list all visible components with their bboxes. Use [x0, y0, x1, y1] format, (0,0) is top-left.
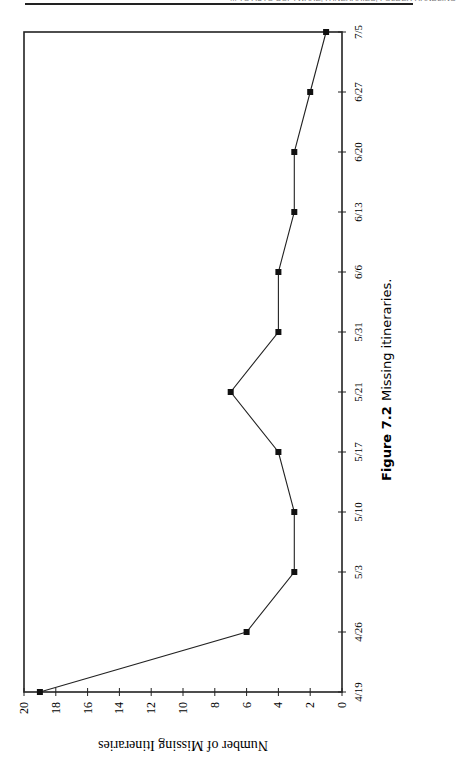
data-markers: [37, 29, 329, 695]
data-point-marker: [291, 149, 297, 155]
y-tick-label: 20: [17, 702, 31, 714]
data-point-marker: [323, 29, 329, 35]
x-tick-label: 5/3: [352, 564, 364, 579]
x-tick-label: 7/5: [352, 24, 364, 39]
data-point-marker: [275, 329, 281, 335]
data-point-marker: [291, 509, 297, 515]
figure-caption: Missing itineraries.: [379, 279, 394, 401]
data-point-marker: [275, 449, 281, 455]
x-tick-label: 5/31: [352, 322, 364, 342]
y-tick-label: 12: [144, 702, 158, 714]
data-point-marker: [244, 629, 250, 635]
y-tick-label: 14: [112, 702, 126, 714]
x-tick-label: 5/17: [352, 442, 364, 462]
y-tick-label: 8: [208, 702, 222, 708]
data-point-marker: [291, 209, 297, 215]
y-axis-label: Number of Missing Itineraries: [98, 738, 268, 753]
data-point-marker: [291, 569, 297, 575]
data-point-marker: [307, 89, 313, 95]
y-tick-label: 10: [176, 702, 190, 714]
y-tick-label: 18: [49, 702, 63, 714]
data-point-marker: [228, 389, 234, 395]
x-tick-label: 6/20: [352, 142, 364, 162]
y-tick-label: 4: [271, 702, 285, 708]
x-tick-label: 6/6: [352, 264, 364, 279]
x-tick-label: 5/21: [352, 382, 364, 402]
x-tick-label: 4/26: [352, 622, 364, 642]
plot-frame: [24, 32, 342, 692]
y-tick-label: 0: [335, 702, 349, 708]
y-tick-label: 2: [303, 702, 317, 708]
y-tick-label: 6: [240, 702, 254, 708]
series-line: [40, 32, 326, 692]
figure-number: Figure 7.2: [379, 406, 394, 481]
y-tick-label: 16: [81, 702, 95, 714]
x-tick-label: 6/13: [352, 202, 364, 222]
data-point-marker: [275, 269, 281, 275]
x-tick-label: 4/19: [352, 682, 364, 702]
x-tick-label: 6/27: [352, 82, 364, 102]
x-tick-label: 5/10: [352, 502, 364, 522]
data-point-marker: [37, 689, 43, 695]
